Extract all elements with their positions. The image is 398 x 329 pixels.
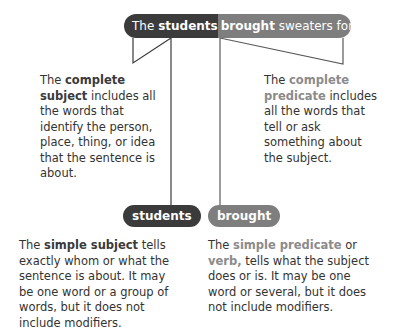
sentence-subject: students bbox=[158, 19, 218, 33]
sentence-prefix: The bbox=[132, 19, 158, 33]
simple-subject-pill: students bbox=[123, 205, 201, 227]
simple-predicate-description: The simple predicate or verb, tells what… bbox=[208, 238, 376, 316]
complete-subject-description: The complete subject includes all the wo… bbox=[40, 73, 170, 182]
subject-segment: The students bbox=[124, 14, 218, 38]
simple-subject-term: simple subject bbox=[44, 238, 138, 252]
simple-predicate-pill: brought bbox=[208, 205, 280, 227]
complete-predicate-description: The complete predicate includes all the … bbox=[264, 73, 384, 166]
predicate-segment: brought sweaters for the hike. bbox=[218, 14, 351, 38]
sentence-pill: The students brought sweaters for the hi… bbox=[124, 14, 351, 38]
sentence-verb: brought bbox=[218, 19, 275, 33]
simple-predicate-term: simple predicate bbox=[233, 238, 342, 252]
verb-term: verb, bbox=[208, 254, 242, 268]
simple-subject-description: The simple subject tells exactly whom or… bbox=[19, 238, 179, 329]
sentence-rest: sweaters for the hike. bbox=[275, 19, 351, 33]
